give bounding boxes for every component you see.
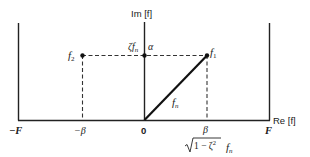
point-f2 bbox=[80, 53, 84, 57]
F-label: F bbox=[264, 125, 272, 136]
vector-fn bbox=[145, 56, 208, 121]
point-f1 bbox=[205, 53, 209, 57]
svg-text:fn: fn bbox=[226, 141, 233, 155]
beta-formula: 1 − ζ2 fn bbox=[185, 138, 233, 155]
imag-intercept-label: ζfn bbox=[128, 41, 139, 54]
f1-label: f1 bbox=[210, 46, 217, 60]
svg-text:1 − ζ2: 1 − ζ2 bbox=[194, 139, 216, 152]
origin-label: 0 bbox=[141, 125, 146, 136]
real-axis-label: Re [f] bbox=[273, 115, 296, 126]
point-imag-intercept bbox=[142, 53, 146, 57]
neg-beta-label: −β bbox=[74, 125, 86, 136]
f2-label: f2 bbox=[68, 49, 75, 63]
imag-axis-label: Im [f] bbox=[131, 8, 152, 19]
beta-label: β bbox=[202, 124, 208, 135]
neg-F-label: −F bbox=[9, 125, 22, 136]
alpha-label: α bbox=[148, 41, 154, 52]
vector-fn-label: fn bbox=[172, 96, 179, 110]
phasor-diagram: Im [f] Re [f] f2 ζfn α f1 fn −F −β 0 β F… bbox=[0, 0, 310, 157]
